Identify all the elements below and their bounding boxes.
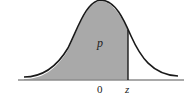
normal-curve-diagram: p 0 z [0, 0, 196, 103]
area-label: p [96, 36, 103, 50]
shaded-area [24, 1, 128, 80]
z-label: z [124, 83, 130, 95]
mean-label: 0 [97, 83, 103, 95]
